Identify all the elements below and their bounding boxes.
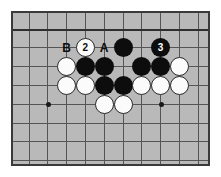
- star-point: [46, 102, 51, 107]
- go-stone-white[interactable]: [57, 76, 76, 95]
- go-stone-white[interactable]: [95, 95, 114, 114]
- go-diagram-root: 32 BA: [0, 0, 221, 177]
- star-point: [159, 102, 164, 107]
- grid-line-horizontal: [13, 141, 208, 142]
- go-stone-white[interactable]: [57, 57, 76, 76]
- point-label-a: A: [95, 38, 114, 57]
- go-stone-black[interactable]: [114, 38, 133, 57]
- point-label-b: B: [57, 38, 76, 57]
- grid-line-horizontal: [13, 160, 208, 161]
- go-stone-white-2[interactable]: 2: [76, 38, 95, 57]
- go-stone-black[interactable]: [76, 57, 95, 76]
- go-stone-black[interactable]: [95, 57, 114, 76]
- move-number-label: 3: [151, 38, 170, 57]
- move-number-label: 2: [77, 39, 94, 56]
- go-board-frame: 32 BA: [11, 11, 210, 166]
- go-stone-black[interactable]: [95, 76, 114, 95]
- go-stone-white[interactable]: [170, 76, 189, 95]
- go-stone-black[interactable]: [151, 57, 170, 76]
- go-stone-black-3[interactable]: 3: [151, 38, 170, 57]
- board-top-edge-line: [13, 29, 208, 31]
- go-board-surface[interactable]: 32 BA: [13, 13, 208, 164]
- go-stone-white[interactable]: [151, 76, 170, 95]
- grid-line-horizontal: [13, 123, 208, 124]
- go-stone-white[interactable]: [132, 76, 151, 95]
- go-stone-white[interactable]: [114, 95, 133, 114]
- go-stone-black[interactable]: [132, 57, 151, 76]
- go-stone-black[interactable]: [114, 76, 133, 95]
- go-stone-white[interactable]: [170, 57, 189, 76]
- go-stone-white[interactable]: [76, 76, 95, 95]
